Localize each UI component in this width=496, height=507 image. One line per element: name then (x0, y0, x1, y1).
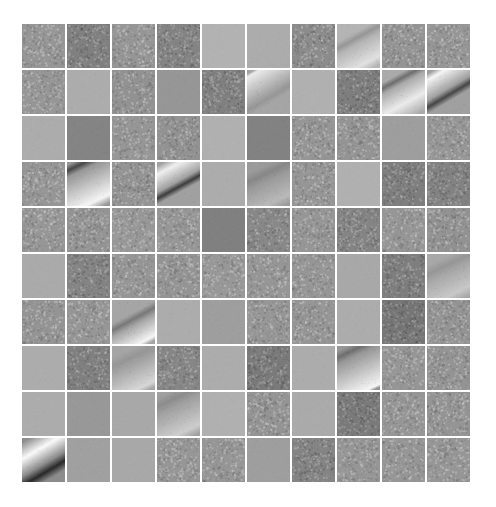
filter-tile-r1-c5 (202, 24, 245, 68)
filter-tile-r5-c10 (427, 208, 470, 252)
filter-tile-r8-c7 (292, 346, 335, 390)
filter-tile-r9-c3 (112, 392, 155, 436)
filter-tile-r7-c1 (22, 300, 65, 344)
filter-tile-r3-c2 (67, 116, 110, 160)
filter-tile-r4-c9 (382, 162, 425, 206)
filter-tile-r9-c6 (247, 392, 290, 436)
filter-tile-r2-c7 (292, 70, 335, 114)
filter-tile-r8-c2 (67, 346, 110, 390)
filter-tile-r5-c6 (247, 208, 290, 252)
filter-tile-r1-c3 (112, 24, 155, 68)
filter-tile-r8-c5 (202, 346, 245, 390)
filter-tile-r3-c4 (157, 116, 200, 160)
filter-tile-r3-c3 (112, 116, 155, 160)
filter-tile-r5-c1 (22, 208, 65, 252)
filter-tile-r10-c9 (382, 438, 425, 482)
filter-tile-r1-c4 (157, 24, 200, 68)
filter-tile-r6-c3 (112, 254, 155, 298)
filter-tile-r6-c9 (382, 254, 425, 298)
filter-tile-r10-c7 (292, 438, 335, 482)
filter-tile-r3-c6 (247, 116, 290, 160)
filter-tile-r2-c10 (427, 70, 470, 114)
filter-tile-r5-c3 (112, 208, 155, 252)
filter-tile-r1-c6 (247, 24, 290, 68)
filter-tile-r2-c5 (202, 70, 245, 114)
filter-tile-r1-c10 (427, 24, 470, 68)
filter-tile-r1-c9 (382, 24, 425, 68)
filter-tile-r4-c3 (112, 162, 155, 206)
filter-tile-r3-c9 (382, 116, 425, 160)
filter-tile-r9-c9 (382, 392, 425, 436)
filter-tile-r7-c7 (292, 300, 335, 344)
filter-tile-r3-c8 (337, 116, 380, 160)
filter-tile-r5-c7 (292, 208, 335, 252)
filter-tile-r3-c5 (202, 116, 245, 160)
filter-tile-r9-c1 (22, 392, 65, 436)
filter-tile-r9-c7 (292, 392, 335, 436)
filter-tile-r4-c8 (337, 162, 380, 206)
filter-tile-r10-c4 (157, 438, 200, 482)
filter-tile-r8-c4 (157, 346, 200, 390)
filter-tile-r7-c4 (157, 300, 200, 344)
filter-tile-r10-c8 (337, 438, 380, 482)
filter-tile-r9-c5 (202, 392, 245, 436)
filter-tile-r7-c3 (112, 300, 155, 344)
filter-grid (22, 24, 472, 484)
filter-tile-r8-c8 (337, 346, 380, 390)
filter-tile-r6-c5 (202, 254, 245, 298)
filter-tile-r5-c9 (382, 208, 425, 252)
filter-tile-r2-c4 (157, 70, 200, 114)
filter-tile-r9-c8 (337, 392, 380, 436)
filter-tile-r8-c10 (427, 346, 470, 390)
filter-tile-r5-c5 (202, 208, 245, 252)
filter-tile-r9-c10 (427, 392, 470, 436)
filter-tile-r9-c4 (157, 392, 200, 436)
filter-tile-r2-c8 (337, 70, 380, 114)
filter-tile-r4-c6 (247, 162, 290, 206)
filter-tile-r6-c4 (157, 254, 200, 298)
filter-tile-r2-c6 (247, 70, 290, 114)
filter-tile-r4-c5 (202, 162, 245, 206)
filter-tile-r4-c7 (292, 162, 335, 206)
filter-tile-r8-c9 (382, 346, 425, 390)
filter-tile-r2-c3 (112, 70, 155, 114)
filter-tile-r10-c6 (247, 438, 290, 482)
filter-tile-r10-c3 (112, 438, 155, 482)
filter-tile-r4-c2 (67, 162, 110, 206)
filter-tile-r7-c10 (427, 300, 470, 344)
filter-tile-r3-c10 (427, 116, 470, 160)
filter-tile-r7-c2 (67, 300, 110, 344)
filter-tile-r5-c8 (337, 208, 380, 252)
filter-tile-r3-c1 (22, 116, 65, 160)
filter-tile-r1-c1 (22, 24, 65, 68)
filter-tile-r10-c2 (67, 438, 110, 482)
filter-tile-r4-c10 (427, 162, 470, 206)
filter-tile-r7-c5 (202, 300, 245, 344)
filter-tile-r2-c1 (22, 70, 65, 114)
filter-tile-r4-c1 (22, 162, 65, 206)
filter-tile-r6-c10 (427, 254, 470, 298)
filter-tile-r7-c9 (382, 300, 425, 344)
filter-tile-r3-c7 (292, 116, 335, 160)
filter-tile-r10-c1 (22, 438, 65, 482)
filter-tile-r2-c2 (67, 70, 110, 114)
filter-tile-r10-c5 (202, 438, 245, 482)
filter-tile-r1-c2 (67, 24, 110, 68)
filter-tile-r9-c2 (67, 392, 110, 436)
filter-tile-r4-c4 (157, 162, 200, 206)
filter-tile-r6-c6 (247, 254, 290, 298)
filter-tile-r1-c7 (292, 24, 335, 68)
filter-tile-r6-c2 (67, 254, 110, 298)
filter-tile-r7-c8 (337, 300, 380, 344)
filter-tile-r1-c8 (337, 24, 380, 68)
filter-tile-r7-c6 (247, 300, 290, 344)
filter-tile-r6-c8 (337, 254, 380, 298)
filter-tile-r10-c10 (427, 438, 470, 482)
filter-tile-r8-c1 (22, 346, 65, 390)
filter-tile-r5-c4 (157, 208, 200, 252)
filter-tile-r8-c6 (247, 346, 290, 390)
filter-tile-r6-c1 (22, 254, 65, 298)
filter-tile-r5-c2 (67, 208, 110, 252)
filter-tile-r8-c3 (112, 346, 155, 390)
filter-tile-r2-c9 (382, 70, 425, 114)
